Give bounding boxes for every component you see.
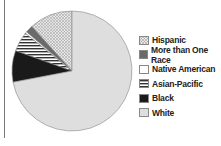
legend-label: More than One Race <box>151 45 221 65</box>
legend-label: White <box>152 108 174 118</box>
native-american-swatch-icon <box>139 65 149 74</box>
legend-item-native-american: Native American <box>139 62 221 77</box>
legend-label: Hispanic <box>152 35 186 45</box>
more-than-one-race-swatch-icon <box>139 50 148 59</box>
pie-slices <box>12 11 132 131</box>
legend-item-asian-pacific: Asian-Pacific <box>139 77 221 92</box>
white-swatch-icon <box>139 108 149 117</box>
legend-label: Black <box>152 93 174 103</box>
legend-item-more-than-one-race: More than One Race <box>139 48 221 63</box>
legend-label: Native American <box>152 64 215 74</box>
legend-label: Asian-Pacific <box>152 79 203 89</box>
legend-item-white: White <box>139 106 221 121</box>
legend: Hispanic More than One Race Native Ameri… <box>139 33 221 120</box>
asian-pacific-swatch-icon <box>139 79 149 88</box>
black-swatch-icon <box>139 94 149 103</box>
legend-item-black: Black <box>139 91 221 106</box>
pie-chart <box>0 0 140 146</box>
hispanic-swatch-icon <box>139 36 149 45</box>
